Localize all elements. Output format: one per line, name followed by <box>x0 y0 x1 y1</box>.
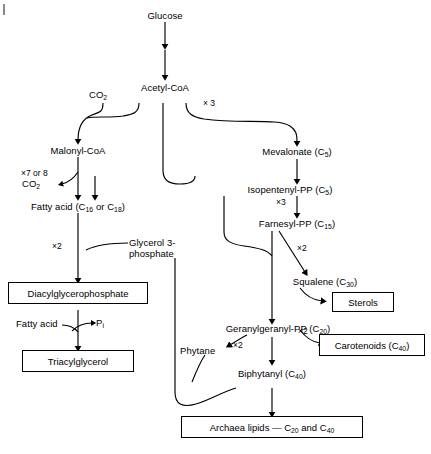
label-malonyl-cycles-multiplier: ×7 or 8 <box>21 168 48 178</box>
co2-released-subscript: 2 <box>36 183 40 190</box>
label-farnesyl-to-squalene-multiplier: ×2 <box>297 243 307 253</box>
pathway-diagram: Glucose Acetyl-CoA CO2 × 3 Malonyl-CoA ×… <box>0 0 431 454</box>
arrow-glycerol3p-to-diacylglycerophosphate <box>86 243 128 250</box>
node-geranylgeranyl-pp: Geranylgeranyl-PP (C20) <box>226 323 331 334</box>
box-triacylglycerol: Triacylglycerol <box>22 350 134 372</box>
node-co2-input: CO2 <box>89 89 107 100</box>
box-sterols: Sterols <box>332 292 394 312</box>
line-acetylcoa-down <box>163 103 180 184</box>
glycerol-3-phosphate-line-2: phosphate <box>129 248 174 259</box>
geranylgeranyl-pp-suffix: ) <box>327 323 330 334</box>
node-glucose: Glucose <box>147 10 182 21</box>
node-fatty-acid-input-2: Fatty acid <box>16 318 58 329</box>
sterols-label: Sterols <box>348 297 378 308</box>
node-glycerol-3-phosphate: Glycerol 3- phosphate <box>129 237 191 259</box>
label-acetylcoa-to-mevalonate-multiplier: × 3 <box>203 98 215 108</box>
node-isopentenyl-pp: Isopentenyl-PP (C5) <box>248 184 333 195</box>
box-diacylglycerophosphate: Diacylglycerophosphate <box>8 282 148 304</box>
line-acetyl-return <box>172 164 195 176</box>
archaea-lipids-mid: and C <box>299 422 327 433</box>
fatty-acid-mid: or C <box>93 201 114 212</box>
label-fattyacid-to-dag-multiplier: ×2 <box>52 241 62 251</box>
farnesyl-pp-prefix: Farnesyl-PP (C <box>259 218 324 229</box>
node-pi-released: Pi <box>96 317 104 328</box>
node-farnesyl-pp: Farnesyl-PP (C15) <box>259 218 335 229</box>
line-glycerol3p-to-archaea <box>175 258 196 406</box>
carotenoids-prefix: Carotenoids (C <box>335 340 399 351</box>
node-fatty-acid: Fatty acid (C16 or C18) <box>31 201 125 212</box>
node-acetyl-coa: Acetyl-CoA <box>141 82 189 93</box>
label-ggpp-to-carotenoids-multiplier: ×2 <box>298 326 308 336</box>
line-acetylcoa-elbow <box>180 176 195 184</box>
line-join-hidden <box>180 171 195 176</box>
label-ggpp-to-phytane-multiplier: ×2 <box>233 340 243 350</box>
biphytanyl-subscript: 40 <box>295 373 303 380</box>
box-archaea-lipids: Archaea lipids — C20 and C40 <box>181 416 363 438</box>
carotenoids-subscript: 40 <box>399 344 407 351</box>
isopentenyl-pp-prefix: Isopentenyl-PP (C <box>248 184 326 195</box>
isopentenyl-pp-suffix: ) <box>329 184 332 195</box>
arrow-acetylcoa-to-mevalonate <box>186 103 297 142</box>
fatty-acid-sub-18: 18 <box>114 206 122 213</box>
arrow-co2-to-malonylcoa <box>78 103 103 140</box>
fatty-acid-suffix: ) <box>122 201 125 212</box>
diacylglycerophosphate-label: Diacylglycerophosphate <box>28 288 129 299</box>
node-biphytanyl: Biphytanyl (C40) <box>238 368 306 379</box>
pathway-arrow-layer <box>0 0 431 454</box>
node-squalene: Squalene (C30) <box>293 276 357 287</box>
carotenoids-label: Carotenoids (C40) <box>335 340 410 351</box>
line-glycerol3p-to-archaea-2 <box>196 388 236 404</box>
pi-subscript: i <box>102 322 104 329</box>
squalene-suffix: ) <box>354 276 357 287</box>
triacylglycerol-label: Triacylglycerol <box>48 356 108 367</box>
biphytanyl-prefix: Biphytanyl (C <box>238 368 295 379</box>
co2-text: CO <box>89 89 103 100</box>
line-phytane-down <box>192 355 205 382</box>
arrow-release-co2 <box>62 172 78 184</box>
co2-released-text: CO <box>22 178 36 189</box>
box-carotenoids: Carotenoids (C40) <box>319 334 425 356</box>
archaea-lipids-label: Archaea lipids — C20 and C40 <box>210 422 335 433</box>
arrow-acetylcoa-to-malonylcoa <box>87 103 139 118</box>
mevalonate-suffix: ) <box>329 146 332 157</box>
node-co2-released: CO2 <box>22 178 40 189</box>
fatty-acid-prefix: Fatty acid (C <box>31 201 86 212</box>
archaea-lipids-sub-20: 20 <box>291 426 299 433</box>
arrow-squalene-to-sterols <box>300 288 322 301</box>
archaea-lipids-prefix: Archaea lipids — C <box>210 422 291 433</box>
node-malonyl-coa: Malonyl-CoA <box>51 145 106 156</box>
glycerol-3-phosphate-line-1: Glycerol 3- <box>129 237 175 248</box>
biphytanyl-suffix: ) <box>303 368 306 379</box>
node-phytane: Phytane <box>180 345 215 356</box>
mevalonate-prefix: Mevalonate (C <box>262 146 324 157</box>
carotenoids-suffix: ) <box>406 340 409 351</box>
arrow-release-pi <box>72 323 92 331</box>
node-mevalonate: Mevalonate (C5) <box>262 146 332 157</box>
farnesyl-pp-suffix: ) <box>332 218 335 229</box>
archaea-lipids-sub-40: 40 <box>327 426 335 433</box>
label-isopentenyl-to-farnesyl-multiplier: ×3 <box>276 197 286 207</box>
squalene-subscript: 30 <box>346 281 354 288</box>
squalene-prefix: Squalene (C <box>293 276 346 287</box>
co2-subscript: 2 <box>103 94 107 101</box>
